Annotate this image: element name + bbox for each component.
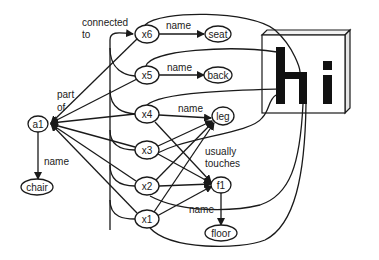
node-x5: x5 [135, 66, 159, 84]
label-touches: touches [205, 158, 240, 169]
hi-image-box [262, 30, 350, 113]
label-a1-name: name [44, 156, 69, 167]
node-x2-label: x2 [142, 181, 153, 192]
node-a1: a1 [28, 116, 48, 132]
label-f1-name: name [189, 204, 214, 215]
node-leg: leg [212, 107, 234, 125]
node-chair-label: chair [26, 182, 48, 193]
node-f1: f1 [211, 177, 231, 193]
label-part: part [57, 89, 74, 100]
node-floor-label: floor [211, 228, 231, 239]
node-x4-label: x4 [142, 109, 153, 120]
label-x6-name: name [166, 20, 191, 31]
node-x3-label: x3 [142, 145, 153, 156]
label-x4-name: name [178, 103, 203, 114]
node-leg-label: leg [216, 111, 229, 122]
node-seat-label: seat [209, 29, 228, 40]
node-x3: x3 [135, 141, 159, 159]
node-back: back [204, 67, 232, 83]
node-seat: seat [205, 26, 231, 42]
node-x1: x1 [135, 210, 159, 228]
node-x6: x6 [135, 25, 159, 43]
node-x6-label: x6 [142, 29, 153, 40]
semantic-network-diagram: a1 chair x6 x5 x4 x3 x2 x1 seat back leg [0, 0, 379, 260]
label-of: of [57, 102, 66, 113]
label-to: to [82, 29, 91, 40]
label-usually: usually [205, 146, 236, 157]
node-chair: chair [21, 179, 53, 195]
node-f1-label: f1 [217, 180, 226, 191]
node-back-label: back [207, 70, 229, 81]
label-x5-name: name [167, 62, 192, 73]
node-a1-label: a1 [32, 119, 44, 130]
node-floor: floor [205, 225, 237, 241]
node-x1-label: x1 [142, 214, 153, 225]
node-x2: x2 [135, 177, 159, 195]
node-x5-label: x5 [142, 70, 153, 81]
node-x4: x4 [135, 105, 159, 123]
part-of-edges [51, 38, 138, 213]
label-connected: connected [82, 17, 128, 28]
